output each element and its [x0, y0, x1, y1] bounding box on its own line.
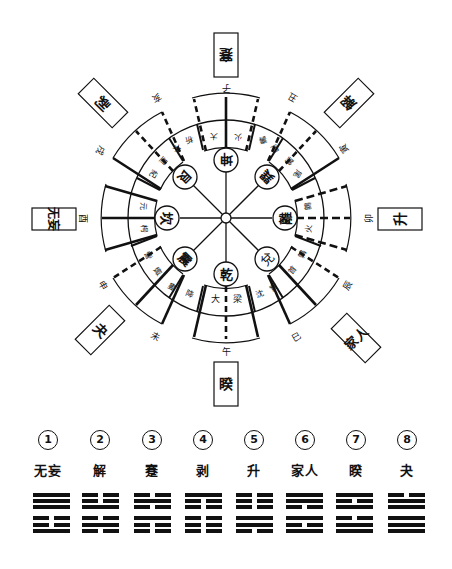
hexagram-name: 蹇 — [127, 460, 177, 479]
number-badge: 1 — [38, 430, 58, 450]
yin-line — [286, 523, 323, 527]
legend-item-5: 5 升 — [229, 428, 279, 479]
number-badge: 8 — [397, 430, 417, 450]
yin-line — [134, 523, 171, 527]
hexagram-name: 剥 — [178, 460, 228, 479]
hexagram-symbol-7 — [336, 493, 373, 535]
station-chunhuo-1: 鶉 — [303, 202, 314, 211]
svg-text:升: 升 — [392, 212, 408, 226]
yin-line — [388, 493, 425, 497]
yin-line — [33, 523, 70, 527]
station-xuanxiao-2: 枵 — [139, 225, 149, 234]
yin-line — [236, 505, 273, 509]
yin-line — [82, 516, 119, 520]
yang-line — [388, 499, 425, 503]
svg-text:睽: 睽 — [219, 376, 234, 392]
yin-line — [336, 516, 373, 520]
yang-line — [236, 516, 273, 520]
yin-line — [33, 516, 70, 520]
legend-item-6: 6 家人 — [280, 428, 330, 479]
box-lower-left: 夬 — [75, 305, 124, 354]
station-jianglou-1: 降 — [184, 288, 195, 300]
box-right: 升 — [378, 208, 422, 230]
hexagram-symbol-3 — [134, 493, 171, 535]
hexagram-legend: 1 无妄 2 解 3 蹇 4 剥 5 升 6 家人 7 睽 8 夬 — [0, 420, 452, 569]
yin-line — [185, 499, 222, 503]
yin-line — [286, 505, 323, 509]
yang-line — [82, 505, 119, 509]
station-shouxing-1: 壽 — [258, 134, 269, 146]
trigram-li: 離 — [273, 206, 297, 230]
yin-line — [236, 493, 273, 497]
yang-line — [286, 516, 323, 520]
svg-text:蹇: 蹇 — [218, 47, 234, 63]
calendar-wheel-diagram: 坤 巽 離 兌 乾 震 坎 艮 大 火 壽 星 鶉 尾 鶉 火 鶉 首 實 沈 … — [0, 0, 452, 420]
yang-line — [185, 493, 222, 497]
branch-wei: 未 — [149, 329, 162, 343]
branch-si: 巳 — [290, 330, 303, 343]
station-daliang-2: 梁 — [233, 293, 242, 304]
yin-line — [236, 499, 273, 503]
station-xingji-2: 紀 — [148, 168, 161, 180]
yang-line — [336, 523, 373, 527]
number-badge: 7 — [346, 430, 366, 450]
branch-chen: 辰 — [341, 279, 354, 292]
yang-line — [134, 516, 171, 520]
hexagram-name: 无妄 — [23, 460, 73, 479]
branch-xu: 戌 — [94, 144, 108, 157]
yang-line — [33, 529, 70, 533]
box-lower-right: 家人 — [330, 311, 383, 364]
hexagram-name: 家人 — [280, 460, 330, 479]
branch-chou: 丑 — [286, 91, 299, 104]
legend-item-7: 7 睽 — [331, 428, 381, 479]
legend-item-8: 8 夬 — [382, 428, 432, 479]
number-badge: 6 — [295, 430, 315, 450]
yin-line — [185, 516, 222, 520]
legend-item-4: 4 剥 — [178, 428, 228, 479]
yin-line — [134, 505, 171, 509]
trigram-gen: 艮 — [173, 165, 197, 189]
yang-line — [286, 493, 323, 497]
yin-line — [185, 529, 222, 533]
number-badge: 2 — [90, 430, 110, 450]
yang-line — [286, 529, 323, 533]
yang-line — [336, 493, 373, 497]
branch-mao: 卯 — [364, 214, 374, 223]
svg-text:離: 離 — [278, 212, 293, 225]
branch-hai: 亥 — [150, 92, 163, 106]
legend-item-3: 3 蹇 — [127, 428, 177, 479]
hexagram-symbol-4 — [185, 493, 222, 535]
station-shichen-2: 沈 — [254, 288, 265, 300]
number-badge: 4 — [193, 430, 213, 450]
yang-line — [236, 523, 273, 527]
yang-line — [33, 493, 70, 497]
yin-line — [134, 493, 171, 497]
box-left: 无妄 — [32, 206, 76, 231]
yang-line — [388, 529, 425, 533]
hexagram-name: 升 — [229, 460, 279, 479]
yang-line — [388, 523, 425, 527]
yang-line — [286, 499, 323, 503]
branch-shen: 申 — [97, 279, 111, 292]
station-dahuo-2: 火 — [234, 132, 243, 142]
yin-line — [185, 505, 222, 509]
yin-line — [82, 529, 119, 533]
yin-line — [82, 493, 119, 497]
yang-line — [134, 499, 171, 503]
trigram-kun: 坤 — [214, 148, 238, 172]
yang-line — [388, 516, 425, 520]
hexagram-symbol-1 — [33, 493, 70, 535]
yang-line — [336, 529, 373, 533]
branch-you: 酉 — [78, 214, 88, 223]
trigram-xun: 巽 — [255, 165, 279, 189]
station-chunshou-1: 鶉 — [296, 248, 308, 259]
station-chunhuo-2: 火 — [304, 225, 314, 234]
branch-yin: 寅 — [336, 142, 350, 155]
yang-line — [33, 499, 70, 503]
yang-line — [388, 505, 425, 509]
box-bottom: 睽 — [214, 362, 238, 406]
number-badge: 5 — [244, 430, 264, 450]
hexagram-symbol-8 — [388, 493, 425, 535]
branch-zi: 子 — [222, 83, 231, 93]
svg-text:无妄: 无妄 — [46, 206, 61, 231]
